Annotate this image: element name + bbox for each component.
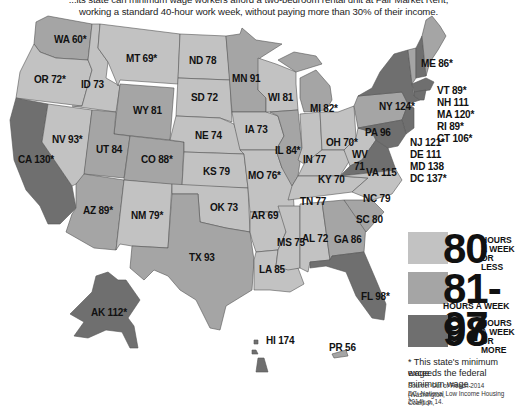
state-hi-2: [252, 350, 258, 354]
label-oh: OH 70*: [326, 137, 358, 148]
label-ks: KS 79: [203, 166, 230, 177]
label-tn: TN 77: [300, 196, 326, 207]
label-ut: UT 84: [96, 144, 122, 155]
label-al: AL 72: [302, 233, 328, 244]
label-fl: FL 98*: [361, 291, 390, 302]
legend-text-high-3: OR MORE: [481, 337, 517, 354]
legend-swatch-mid: [408, 272, 448, 304]
label-pr: PR 56: [329, 342, 356, 353]
label-ar: AR 69: [251, 210, 278, 221]
state-ma: [412, 78, 434, 92]
label-wv: WV: [352, 149, 368, 160]
label-sc: SC 80: [356, 214, 383, 225]
label-mt: MT 69*: [126, 53, 157, 64]
label-ia: IA 73: [245, 124, 268, 135]
label-ms: MS 75: [277, 237, 305, 248]
label-mi: MI 82*: [310, 103, 338, 114]
label-tx: TX 93: [189, 252, 215, 263]
label-wi: WI 81: [268, 92, 293, 103]
label-mn: MN 91: [232, 73, 260, 84]
label-ok: OK 73: [210, 202, 238, 213]
label-az: AZ 89*: [83, 205, 113, 216]
label-nv: NV 93*: [52, 134, 83, 145]
label-nc: NC 79: [363, 193, 390, 204]
label-md: MD 138: [410, 161, 444, 172]
label-ri: RI 89*: [437, 121, 464, 132]
label-ne: NE 74: [195, 130, 222, 141]
state-hi-3: [254, 340, 258, 344]
label-la: LA 85: [259, 264, 285, 275]
label-nh: NH 111: [437, 97, 469, 108]
label-id: ID 73: [81, 79, 104, 90]
label-me: ME 86*: [421, 58, 453, 69]
source-line-3: 2014), p. 14.: [408, 398, 443, 407]
label-nm: NM 79*: [131, 210, 163, 221]
label-ca: CA 130*: [18, 154, 54, 165]
label-ma: MA 120*: [437, 109, 474, 120]
label-ky: KY 70: [318, 174, 345, 185]
label-wa: WA 60*: [54, 34, 86, 45]
label-ak: AK 112*: [91, 307, 127, 318]
label-ga: GA 86: [334, 234, 362, 245]
label-de: DE 111: [410, 149, 441, 160]
label-nd: ND 78: [189, 55, 216, 66]
label-mo: MO 76*: [248, 170, 281, 181]
label-co: CO 88*: [141, 154, 173, 165]
label-wv-value: 71: [354, 161, 365, 172]
label-sd: SD 72: [191, 92, 218, 103]
state-hi: [256, 358, 268, 372]
label-il: IL 84*: [275, 145, 300, 156]
label-nj: NJ 121*: [410, 137, 445, 148]
legend-swatch-low: [408, 232, 448, 264]
source-label: Source:: [408, 382, 430, 389]
state-fl: [310, 252, 386, 320]
label-va: VA 115: [366, 167, 397, 178]
label-wy: WY 81: [133, 105, 162, 116]
legend-swatch-high: [408, 315, 448, 347]
label-vt: VT 89*: [437, 85, 466, 96]
label-ny: NY 124*: [379, 101, 415, 112]
label-hi: HI 174: [266, 335, 294, 346]
label-in: IN 77: [303, 154, 326, 165]
label-or: OR 72*: [34, 74, 66, 85]
label-pa: PA 96: [365, 127, 391, 138]
label-dc: DC 137*: [410, 173, 446, 184]
